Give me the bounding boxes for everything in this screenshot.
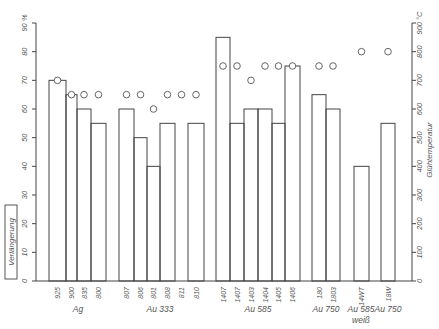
bar [147, 166, 160, 281]
y2-tick-label: 100 [415, 245, 424, 258]
category-label: 180 [316, 287, 323, 299]
temperature-markers [54, 48, 391, 112]
category-label: 1803 [330, 287, 337, 303]
category-label: 1403 [248, 287, 255, 303]
temperature-marker [262, 63, 269, 70]
temperature-marker [289, 63, 296, 70]
y-axis-title: Verlängerung [7, 218, 16, 266]
bar [312, 95, 326, 281]
bar-series [49, 37, 395, 281]
bar [216, 37, 230, 281]
bar [134, 138, 147, 281]
temperature-marker [95, 91, 102, 98]
axis-titles: VerlängerungGlühtemperatur [5, 122, 434, 279]
bar [354, 166, 369, 281]
y2-tick-label: 200 [415, 217, 424, 231]
y-tick-label: 50 [20, 133, 29, 142]
category-label: 1406 [289, 287, 296, 303]
y-tick-label: 40 [20, 161, 29, 170]
category-label: 1404 [262, 287, 269, 303]
category-label: 14WT [358, 286, 365, 305]
bar [91, 123, 106, 281]
temperature-marker [275, 63, 282, 70]
temperature-marker [178, 91, 185, 98]
bar [244, 109, 258, 281]
temperature-marker [234, 63, 241, 70]
right-y-axis: 0100200300400500600700800900 °C [412, 11, 424, 283]
bar [66, 95, 77, 281]
category-label: 801 [150, 287, 157, 299]
temperature-marker [248, 77, 255, 84]
y-tick-label: 10 [20, 247, 29, 256]
y-tick-label: 20 [20, 219, 29, 229]
y-tick-label: 60 [20, 104, 29, 113]
temperature-marker [385, 48, 392, 55]
temperature-marker [193, 91, 200, 98]
bar [230, 123, 244, 281]
temperature-marker [316, 63, 323, 70]
temperature-marker [123, 91, 130, 98]
group-label: Au 585 [244, 304, 272, 314]
category-label: 900 [68, 287, 75, 299]
chart: 0102030405060708090 % 010020030040050060… [0, 0, 439, 329]
group-label: Au 333 [146, 304, 174, 314]
category-label: 811 [178, 287, 185, 298]
group-labels: AgAu 333Au 585Au 750Au 585weißAu 750 [72, 304, 402, 325]
temperature-marker [68, 91, 75, 98]
y2-tick-label: 300 [415, 188, 424, 201]
y-tick-label: 0 [20, 278, 29, 283]
y-tick-label: 70 [20, 75, 29, 84]
category-label: 810 [193, 287, 200, 299]
y-tick-label: 90 % [20, 14, 29, 31]
bar [188, 123, 204, 281]
y2-axis-title: Glühtemperatur [425, 122, 434, 178]
temperature-marker [54, 77, 61, 84]
group-sublabel: weiß [352, 315, 370, 325]
bar [77, 109, 91, 281]
y2-tick-label: 0 [415, 278, 424, 283]
category-labels: 9259008358008078068018088118101407140714… [54, 286, 392, 306]
y2-tick-label: 400 [415, 159, 424, 172]
temperature-marker [330, 63, 337, 70]
temperature-marker [164, 91, 171, 98]
y-tick-label: 30 [20, 190, 29, 199]
y2-tick-label: 500 [415, 131, 424, 144]
bar [381, 123, 395, 281]
category-label: 1405 [275, 287, 282, 303]
group-label: Au 750 [312, 304, 340, 314]
category-label: 1407 [220, 286, 227, 303]
category-label: 1407 [234, 286, 241, 303]
bar [119, 109, 134, 281]
y-tick-label: 80 [20, 47, 29, 56]
category-label: 808 [164, 287, 171, 299]
bar [285, 66, 300, 281]
category-label: 835 [81, 287, 88, 299]
bar [49, 80, 66, 281]
group-label: Ag [72, 304, 84, 314]
bar [258, 109, 272, 281]
category-label: 18W [385, 286, 392, 302]
temperature-marker [220, 63, 227, 70]
category-label: 925 [54, 287, 61, 299]
y2-tick-label: 600 [415, 102, 424, 115]
category-label: 806 [137, 287, 144, 299]
bar [272, 123, 285, 281]
y2-tick-label: 800 [415, 45, 424, 58]
temperature-marker [150, 106, 157, 113]
bar [160, 123, 175, 281]
y2-tick-label: 700 [415, 73, 424, 86]
group-label: Au 750 [374, 304, 402, 314]
category-label: 800 [95, 287, 102, 299]
temperature-marker [81, 91, 88, 98]
category-label: 807 [123, 286, 130, 299]
y2-tick-label: 900 °C [415, 11, 424, 35]
temperature-marker [358, 48, 365, 55]
bar [326, 109, 340, 281]
temperature-marker [137, 91, 144, 98]
group-label: Au 585 [347, 304, 375, 314]
